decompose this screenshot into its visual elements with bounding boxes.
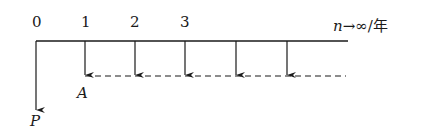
present-value-label: P (30, 114, 40, 129)
annuity-label: A (77, 86, 88, 101)
axis-unit: /年 (368, 17, 388, 35)
tick-label-3: 3 (180, 15, 190, 30)
axis-arrow-glyph: → (343, 17, 356, 35)
tick-label-0: 0 (32, 15, 42, 30)
cash-flow-diagram: 0 1 2 3 n→∞/年 A P (0, 0, 441, 131)
axis-variable: n (333, 17, 343, 35)
tick-label-1: 1 (81, 15, 91, 30)
axis-label: n→∞/年 (333, 19, 388, 34)
infinity-symbol: ∞ (355, 17, 368, 35)
tick-label-2: 2 (130, 15, 140, 30)
annuity-arrows (85, 41, 287, 75)
